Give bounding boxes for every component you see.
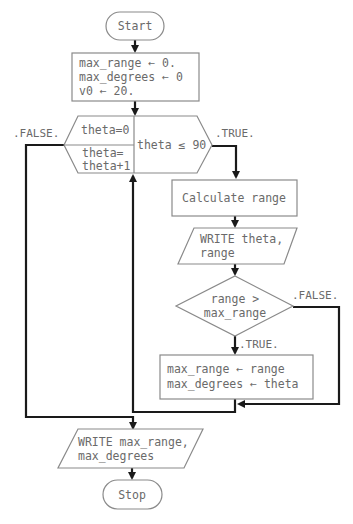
start-terminator: Start xyxy=(106,12,164,40)
init-process-box: max_range ← 0. max_degrees ← 0 v0 ← 20. xyxy=(72,53,199,101)
assign-line-1: max_range ← range xyxy=(167,362,285,376)
loop-increment-line-2: theta+1 xyxy=(82,159,131,173)
init-line-3: v0 ← 20. xyxy=(79,84,134,98)
loop-hexagon: theta=0 theta= theta+1 theta ≤ 90 xyxy=(64,116,212,173)
loop-false-label: .FALSE. xyxy=(13,127,59,140)
stop-terminator: Stop xyxy=(103,480,162,509)
write1-line-1: WRITE theta, xyxy=(200,232,283,246)
loop-condition-text: theta ≤ 90 xyxy=(137,138,206,152)
flowchart: Start max_range ← 0. max_degrees ← 0 v0 … xyxy=(0,0,353,524)
edge-loop-true xyxy=(212,146,236,177)
write-max-io: WRITE max_range, max_degrees xyxy=(58,429,203,468)
init-line-1: max_range ← 0. xyxy=(79,56,176,70)
calc-process-box: Calculate range xyxy=(172,180,297,216)
assign-process-box: max_range ← range max_degrees ← theta xyxy=(160,355,313,399)
assign-line-2: max_degrees ← theta xyxy=(167,377,299,391)
init-line-2: max_degrees ← 0 xyxy=(79,70,183,84)
write2-line-1: WRITE max_range, xyxy=(78,435,189,449)
write1-line-2: range xyxy=(200,246,235,260)
write-theta-io: WRITE theta, range xyxy=(178,228,297,264)
loop-true-label: .TRUE. xyxy=(215,127,255,140)
decision-true-label: .TRUE. xyxy=(239,338,279,351)
write2-line-2: max_degrees xyxy=(78,449,154,463)
decision-line-2: max_range xyxy=(204,306,266,320)
edge-loop-false xyxy=(26,145,133,428)
range-decision: range > max_range xyxy=(176,276,293,336)
decision-false-label: .FALSE. xyxy=(292,289,338,302)
calc-text: Calculate range xyxy=(182,191,286,205)
decision-line-1: range > xyxy=(211,292,260,306)
start-text: Start xyxy=(118,19,153,33)
loop-increment-line-1: theta= xyxy=(82,146,124,160)
loop-init-text: theta=0 xyxy=(81,123,130,137)
stop-text: Stop xyxy=(118,488,146,502)
